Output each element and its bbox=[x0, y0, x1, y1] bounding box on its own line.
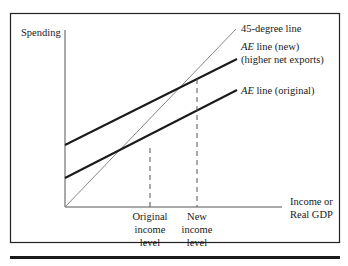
original-income-label-line2: income bbox=[135, 224, 166, 235]
new-income-label-line3: level bbox=[187, 237, 207, 248]
original-income-label-line1: Original bbox=[133, 211, 168, 222]
ae-original-label-rest: line (original) bbox=[254, 85, 315, 97]
ae-line-original bbox=[65, 90, 237, 178]
ae-diagram: Spending 45-degree line AE line (new) (h… bbox=[0, 0, 348, 266]
bottom-rule bbox=[10, 256, 340, 259]
ae-new-label-italic: AE bbox=[240, 41, 254, 52]
ae-new-label-rest: line (new) bbox=[254, 41, 300, 53]
original-income-label-line3: level bbox=[140, 237, 160, 248]
forty-five-degree-line bbox=[65, 29, 236, 207]
ae-line-new bbox=[65, 59, 237, 145]
x-axis-label-line1: Income or bbox=[290, 196, 333, 207]
ae-original-label-italic: AE bbox=[240, 85, 254, 96]
y-axis-label: Spending bbox=[21, 27, 61, 38]
ae-new-label: AE line (new) bbox=[240, 41, 300, 53]
ae-new-label-line2: (higher net exports) bbox=[241, 54, 324, 66]
new-income-label-line1: New bbox=[187, 211, 207, 222]
forty-five-line-label: 45-degree line bbox=[241, 23, 302, 34]
ae-original-label: AE line (original) bbox=[240, 85, 315, 97]
x-axis-label-line2: Real GDP bbox=[290, 209, 333, 220]
new-income-label-line2: income bbox=[182, 224, 213, 235]
